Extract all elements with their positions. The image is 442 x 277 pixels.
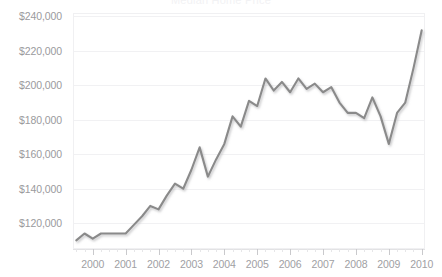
y-tick-label: $160,000	[19, 148, 62, 160]
x-tick-major	[356, 249, 357, 255]
x-tick-minor	[348, 249, 349, 252]
y-tick-label: $140,000	[19, 183, 62, 195]
x-tick-label: 2001	[114, 258, 137, 270]
y-tick-label: $200,000	[19, 79, 62, 91]
x-tick-minor	[208, 249, 209, 252]
x-tick-label: 2006	[279, 258, 302, 270]
y-tick-label: $220,000	[19, 45, 62, 57]
x-tick-minor	[183, 249, 184, 252]
x-tick-major	[323, 249, 324, 255]
x-tick-minor	[167, 249, 168, 252]
x-tick-label: 2009	[377, 258, 400, 270]
y-tick-label: $180,000	[19, 114, 62, 126]
x-tick-major	[159, 249, 160, 255]
x-axis: 2000200120022003200420052006200720082009…	[73, 249, 425, 277]
line-chart: Median Home Price $240,000$220,000$200,0…	[0, 0, 442, 277]
x-tick-major	[389, 249, 390, 255]
x-tick-minor	[405, 249, 406, 252]
x-tick-major	[290, 249, 291, 255]
x-tick-minor	[364, 249, 365, 252]
x-tick-minor	[372, 249, 373, 252]
x-tick-minor	[339, 249, 340, 252]
x-tick-minor	[216, 249, 217, 252]
x-tick-minor	[265, 249, 266, 252]
x-tick-label: 2005	[246, 258, 269, 270]
x-tick-label: 2007	[312, 258, 335, 270]
x-tick-minor	[142, 249, 143, 252]
x-tick-minor	[249, 249, 250, 252]
x-tick-minor	[331, 249, 332, 252]
x-tick-label: 2008	[344, 258, 367, 270]
series-line-median-home-price	[76, 30, 421, 240]
x-tick-major	[422, 249, 423, 255]
data-series-layer	[73, 13, 425, 249]
x-tick-major	[257, 249, 258, 255]
x-tick-major	[224, 249, 225, 255]
x-tick-label: 2010	[410, 258, 433, 270]
x-tick-label: 2000	[81, 258, 104, 270]
x-tick-label: 2003	[180, 258, 203, 270]
y-tick-label: $120,000	[19, 217, 62, 229]
x-tick-major	[191, 249, 192, 255]
x-tick-minor	[109, 249, 110, 252]
x-tick-minor	[381, 249, 382, 252]
x-tick-minor	[298, 249, 299, 252]
x-tick-minor	[200, 249, 201, 252]
x-tick-minor	[76, 249, 77, 252]
x-tick-minor	[307, 249, 308, 252]
x-tick-minor	[175, 249, 176, 252]
x-tick-minor	[85, 249, 86, 252]
x-tick-minor	[241, 249, 242, 252]
x-tick-major	[93, 249, 94, 255]
x-tick-minor	[397, 249, 398, 252]
x-tick-minor	[233, 249, 234, 252]
x-tick-label: 2002	[147, 258, 170, 270]
x-tick-minor	[117, 249, 118, 252]
x-tick-major	[126, 249, 127, 255]
y-axis: $240,000$220,000$200,000$180,000$160,000…	[0, 0, 70, 277]
x-tick-minor	[315, 249, 316, 252]
x-tick-minor	[150, 249, 151, 252]
x-tick-minor	[282, 249, 283, 252]
y-tick-label: $240,000	[19, 10, 62, 22]
x-tick-label: 2004	[213, 258, 236, 270]
x-tick-minor	[274, 249, 275, 252]
x-tick-minor	[101, 249, 102, 252]
x-tick-minor	[134, 249, 135, 252]
x-tick-minor	[413, 249, 414, 252]
